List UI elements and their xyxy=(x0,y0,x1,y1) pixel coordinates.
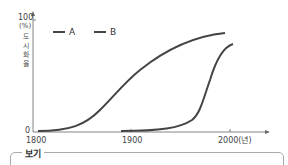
y-unit: (%) xyxy=(19,23,31,30)
bogi-box xyxy=(10,152,284,165)
y-tick-100: 100 xyxy=(18,14,33,22)
y-tick-0: 0 xyxy=(25,127,30,135)
y-axis-title: 도 시 화 율 xyxy=(22,33,30,69)
chart-plot xyxy=(0,0,288,150)
legend-a-swatch xyxy=(53,31,65,33)
x-tick-1800: 1800 xyxy=(26,137,46,145)
x-tick-1900: 1900 xyxy=(122,137,142,145)
x-tick-2000: 2000(년) xyxy=(218,137,252,145)
legend-b: B xyxy=(94,27,116,37)
x-axis-arrow xyxy=(265,130,270,134)
bogi-label: 보기 xyxy=(22,147,44,160)
legend-b-swatch xyxy=(94,31,106,33)
legend-a: A xyxy=(53,27,75,37)
series-a-line xyxy=(38,33,225,131)
series-b-line xyxy=(121,44,233,131)
